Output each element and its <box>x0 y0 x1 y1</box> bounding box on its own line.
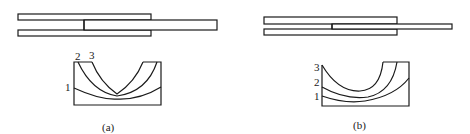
panel-a-label-3: 3 <box>89 49 95 61</box>
diagram-canvas: 2 3 1 (a) 3 2 1 (b) <box>0 0 470 134</box>
panel-a-bottom-plate <box>18 30 151 36</box>
panel-a-curve-2 <box>78 62 157 96</box>
panel-b-cross-section: 3 2 1 (b) <box>314 61 409 132</box>
panel-a-caption: (a) <box>102 121 115 134</box>
panel-a-middle-sheet <box>84 20 217 30</box>
panel-b-plate-stack <box>264 17 452 35</box>
panel-b-bottom-plate <box>264 29 397 35</box>
panel-b-label-3: 3 <box>314 61 320 73</box>
panel-a-top-plate <box>18 14 151 20</box>
panel-a-label-1: 1 <box>65 81 71 93</box>
panel-b-label-1: 1 <box>314 90 320 102</box>
panel-b-label-2: 2 <box>314 76 320 88</box>
panel-a-cross-section: 2 3 1 (a) <box>65 49 161 134</box>
panel-a-plate-stack <box>18 14 217 36</box>
panel-b-curve-3 <box>322 62 383 91</box>
panel-b-caption: (b) <box>353 119 366 132</box>
panel-b-top-plate <box>264 17 397 24</box>
panel-a-label-2: 2 <box>75 50 81 62</box>
panel-b-middle-sheet <box>332 24 452 29</box>
